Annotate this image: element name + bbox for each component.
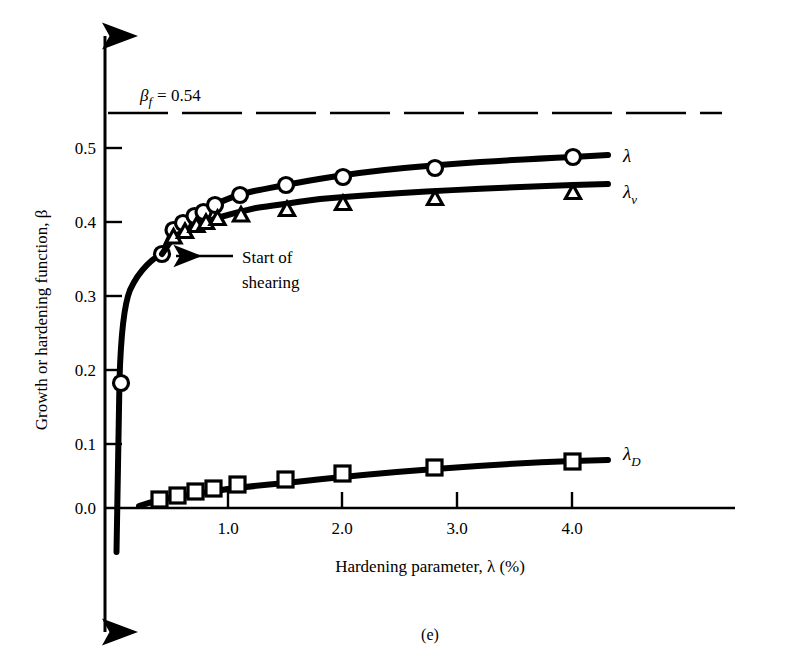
data-point-marker — [208, 198, 223, 213]
x-tick-label-3: 4.0 — [561, 519, 582, 538]
y-tick-label-2: 0.3 — [75, 287, 96, 306]
y-tick-label-3: 0.2 — [75, 361, 96, 380]
y-tick-label-5: 0.0 — [75, 499, 96, 518]
data-point-marker — [233, 188, 248, 203]
lambda-v-subscript: v — [631, 192, 637, 207]
data-point-marker — [427, 460, 442, 475]
y-tick-label-0: 0.5 — [75, 139, 96, 158]
beta-f-label: βf= 0.54 — [139, 86, 201, 109]
data-point-marker — [336, 170, 351, 185]
figure-caption: (e) — [421, 626, 439, 644]
series-label-lambda: λ — [622, 145, 631, 166]
data-point-marker — [278, 472, 293, 487]
data-point-marker — [279, 178, 294, 193]
series-lambda-curve — [162, 155, 608, 254]
beta-f-value: = 0.54 — [157, 86, 201, 105]
beta-f-subscript: f — [148, 94, 154, 109]
x-tick-label-0: 1.0 — [217, 519, 238, 538]
data-point-marker — [428, 161, 443, 176]
lambda-D-subscript: D — [630, 454, 641, 469]
start-of-shearing-label-line2: shearing — [242, 273, 300, 292]
x-tick-marks — [228, 492, 572, 508]
y-axis-title: Growth or hardening function, β — [32, 210, 51, 431]
x-axis-title: Hardening parameter, λ (%) — [335, 557, 525, 576]
data-point-marker — [170, 488, 185, 503]
figure-container: 0.5 0.4 0.3 0.2 0.1 0.0 1.0 2.0 3.0 4.0 … — [0, 0, 791, 670]
data-point-marker — [230, 477, 245, 492]
data-point-marker — [206, 481, 221, 496]
data-point-marker — [335, 466, 350, 481]
data-point-marker — [566, 150, 581, 165]
y-tick-label-4: 0.1 — [75, 435, 96, 454]
data-point-marker — [188, 484, 203, 499]
series-label-lambda-D: λD — [622, 443, 641, 469]
chart-svg: 0.5 0.4 0.3 0.2 0.1 0.0 1.0 2.0 3.0 4.0 … — [0, 0, 791, 670]
data-point-marker — [565, 454, 580, 469]
x-tick-label-1: 2.0 — [331, 519, 352, 538]
start-of-shearing-label-line1: Start of — [242, 248, 293, 267]
data-point-marker — [152, 492, 167, 507]
lambda-symbol: λ — [622, 145, 631, 166]
series-lambda-v-curve — [162, 184, 608, 254]
data-point-marker — [114, 376, 129, 391]
y-tick-label-1: 0.4 — [75, 213, 97, 232]
x-tick-label-2: 3.0 — [446, 519, 467, 538]
lambda-symbol: λ — [622, 181, 631, 202]
lambda-symbol: λ — [622, 443, 631, 464]
series-label-lambda-v: λv — [622, 181, 637, 207]
